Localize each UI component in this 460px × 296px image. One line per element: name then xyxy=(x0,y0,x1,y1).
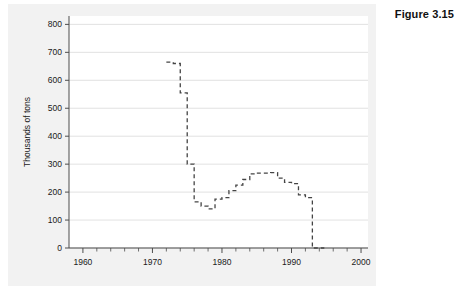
x-tick-label: 2000 xyxy=(352,257,371,267)
y-tick-label: 600 xyxy=(48,75,62,85)
x-tick-label: 1970 xyxy=(143,257,162,267)
line-chart: 0100200300400500600700800196019701980199… xyxy=(8,4,376,286)
x-tick-label: 1980 xyxy=(213,257,232,267)
y-tick-label: 0 xyxy=(57,243,62,253)
y-tick-label: 700 xyxy=(48,47,62,57)
y-axis-title: Thousands of tons xyxy=(22,97,32,167)
y-tick-label: 300 xyxy=(48,159,62,169)
figure-container: 0100200300400500600700800196019701980199… xyxy=(0,0,460,296)
y-tick-label: 400 xyxy=(48,131,62,141)
chart-panel: 0100200300400500600700800196019701980199… xyxy=(8,4,376,286)
figure-label: Figure 3.15 xyxy=(395,8,454,20)
y-tick-label: 800 xyxy=(48,19,62,29)
x-tick-label: 1960 xyxy=(73,257,92,267)
y-tick-label: 100 xyxy=(48,215,62,225)
y-tick-label: 200 xyxy=(48,187,62,197)
plot-area-background xyxy=(69,16,368,248)
y-tick-label: 500 xyxy=(48,103,62,113)
x-tick-label: 1990 xyxy=(282,257,301,267)
